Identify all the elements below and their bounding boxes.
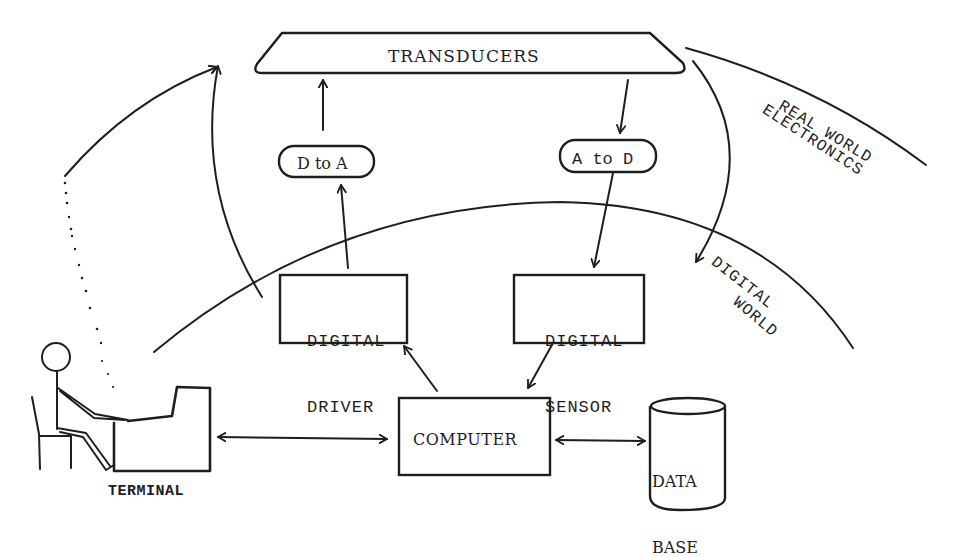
- digital-driver-label: DIGITAL DRIVER: [307, 287, 385, 463]
- terminal-figure: [32, 343, 210, 471]
- computer-label: COMPUTER: [413, 432, 517, 448]
- arrow-computer-to-driver: [404, 346, 437, 391]
- dotted-line-from-terminal: [64, 182, 114, 388]
- transducers-label: TRANSDUCERS: [388, 48, 540, 65]
- curved-arrow-terminal-to-transducers: [65, 67, 217, 176]
- curved-arrow-digital-to-transducers: [212, 66, 262, 297]
- database-line1: DATA: [652, 471, 698, 493]
- database-label: DATA BASE: [652, 427, 698, 557]
- arrow-a-to-d-to-sensor: [594, 173, 613, 267]
- digital-sensor-label: DIGITAL SENSOR: [545, 287, 623, 463]
- digital-sensor-line1: DIGITAL: [545, 331, 623, 353]
- database-line2: BASE: [652, 537, 698, 557]
- curved-arrow-transducers-to-digital: [693, 61, 730, 262]
- digital-sensor-line2: SENSOR: [545, 397, 623, 419]
- operator-head: [42, 343, 70, 371]
- digital-driver-line2: DRIVER: [307, 397, 385, 419]
- d-to-a-label: D to A: [297, 156, 348, 172]
- a-to-d-label: A to D: [572, 151, 633, 168]
- arrow-driver-to-d-to-a: [341, 185, 348, 268]
- digital-driver-line1: DIGITAL: [307, 331, 385, 353]
- arrow-transducers-to-a-to-d: [620, 80, 628, 133]
- terminal-label: TERMINAL: [108, 484, 184, 499]
